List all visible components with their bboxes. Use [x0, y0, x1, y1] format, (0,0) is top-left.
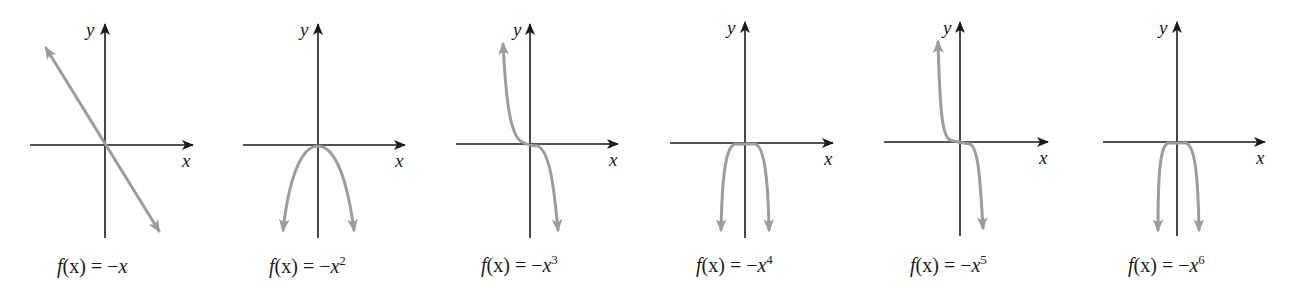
y-axis-label: y — [84, 19, 95, 40]
power-function-graphs: y x f(x) = −x y x f(x) = −x2 y x f(x) = … — [0, 0, 1295, 290]
function-label: f(x) = −x4 — [696, 252, 773, 277]
y-axis-label: y — [1157, 17, 1168, 38]
function-label: f(x) = −x3 — [481, 252, 558, 277]
y-axis-label: y — [941, 17, 952, 38]
function-label: f(x) = −x5 — [910, 252, 987, 277]
graph-neg-x4: y x f(x) = −x4 — [670, 17, 833, 277]
function-label: f(x) = −x — [57, 255, 127, 278]
x-axis-label: x — [1255, 147, 1265, 168]
y-axis-label: y — [511, 19, 522, 40]
y-axis-label: y — [725, 17, 736, 38]
x-axis-label: x — [1038, 147, 1048, 168]
y-axis-label: y — [298, 19, 309, 40]
function-label: f(x) = −x2 — [269, 253, 346, 278]
x-axis-label: x — [608, 149, 618, 170]
function-curve — [46, 48, 159, 231]
graph-neg-x2: y x f(x) = −x2 — [243, 19, 405, 278]
graph-neg-x3: y x f(x) = −x3 — [456, 19, 618, 277]
function-label: f(x) = −x6 — [1128, 252, 1205, 277]
x-axis-label: x — [823, 148, 833, 169]
function-curve — [1158, 143, 1199, 230]
x-axis-label: x — [181, 150, 191, 171]
x-axis-label: x — [394, 150, 404, 171]
graph-neg-x5: y x f(x) = −x5 — [884, 17, 1048, 277]
graph-neg-x6: y x f(x) = −x6 — [1103, 17, 1265, 277]
graph-neg-x: y x f(x) = −x — [30, 19, 193, 278]
